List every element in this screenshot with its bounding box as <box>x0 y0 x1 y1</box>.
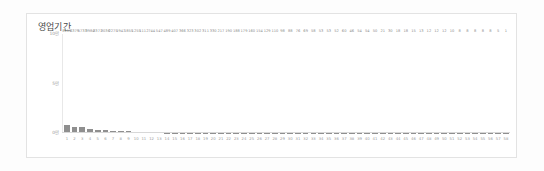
bar-item[interactable]: 302 <box>194 34 202 133</box>
bar-item[interactable]: 8 <box>479 34 487 133</box>
bar-item[interactable]: 1112 <box>140 34 148 133</box>
x-axis-tick-label: 8 <box>117 134 125 144</box>
x-axis-tick-label: 49 <box>433 134 441 144</box>
bar-item[interactable]: 98 <box>279 34 287 133</box>
x-axis-tick-label: 47 <box>417 134 425 144</box>
bar-item[interactable]: 489 <box>163 34 171 133</box>
bar-value-label: 12 <box>427 30 432 34</box>
x-axis-tick-label: 30 <box>286 134 294 144</box>
bar-value-label: 50 <box>373 30 378 34</box>
bar-item[interactable]: 744 <box>148 34 156 133</box>
x-axis-tick-label: 14 <box>163 134 171 144</box>
bar-item[interactable]: 53 <box>325 34 333 133</box>
bar-item[interactable]: 12 <box>440 34 448 133</box>
bar-item[interactable]: 6379 <box>71 34 79 133</box>
bar-item[interactable]: 190 <box>225 34 233 133</box>
bar-item[interactable]: 52 <box>333 34 341 133</box>
bar-item[interactable]: 8 <box>464 34 472 133</box>
x-axis-tick-label: 53 <box>464 134 472 144</box>
bar-value-label: 76 <box>296 30 301 34</box>
bar-item[interactable]: 2275 <box>109 34 117 133</box>
bar-item[interactable]: 76 <box>294 34 302 133</box>
bar-value-label: 53 <box>319 30 324 34</box>
bar-item[interactable]: 46 <box>348 34 356 133</box>
bar-item[interactable]: 1947 <box>117 34 125 133</box>
bar-item[interactable]: 311 <box>202 34 210 133</box>
x-axis-tick-label: 52 <box>456 134 464 144</box>
bar-item[interactable]: 30 <box>387 34 395 133</box>
bar-item[interactable]: 154 <box>256 34 264 133</box>
bar-value-label: 129 <box>264 30 271 34</box>
bar-value-label: 190 <box>225 30 232 34</box>
bar-item[interactable]: 54 <box>356 34 364 133</box>
bar-value-label: 330 <box>210 30 217 34</box>
bar-item[interactable]: 12 <box>433 34 441 133</box>
bar-item[interactable]: 8 <box>471 34 479 133</box>
bar-item[interactable]: 129 <box>263 34 271 133</box>
bar-item[interactable]: 18 <box>394 34 402 133</box>
bar-item[interactable]: 13 <box>417 34 425 133</box>
bar-item[interactable]: 8 <box>456 34 464 133</box>
bar-item[interactable]: 1 <box>502 34 510 133</box>
x-axis-tick-label: 11 <box>140 134 148 144</box>
bar-value-label: 46 <box>350 30 355 34</box>
bar-value-label: 8 <box>466 30 468 34</box>
bar-value-label: 12 <box>442 30 447 34</box>
bar-item[interactable]: 366 <box>179 34 187 133</box>
x-axis-tick-label: 23 <box>232 134 240 144</box>
bar-item[interactable]: 5733 <box>78 34 86 133</box>
bar-item[interactable]: 10 <box>448 34 456 133</box>
x-axis-tick-label: 7 <box>109 134 117 144</box>
bar-item[interactable]: 12 <box>425 34 433 133</box>
x-axis-tick-label: 32 <box>302 134 310 144</box>
bar-item[interactable]: 58 <box>310 34 318 133</box>
x-axis-tick-label: 10 <box>132 134 140 144</box>
bar-item[interactable]: 8 <box>487 34 495 133</box>
x-axis-tick-label: 51 <box>448 134 456 144</box>
x-axis-tick-label: 3 <box>78 134 86 144</box>
bar-item[interactable]: 5 <box>494 34 502 133</box>
bar-item[interactable]: 54 <box>363 34 371 133</box>
bar-item[interactable]: 69 <box>302 34 310 133</box>
bar-item[interactable]: 21 <box>379 34 387 133</box>
bar-value-label: 18 <box>396 30 401 34</box>
bar-value-label: 5 <box>497 30 499 34</box>
bar-item[interactable]: 3984 <box>86 34 94 133</box>
x-axis-tick-label: 39 <box>356 134 364 144</box>
x-axis-tick-label: 6 <box>102 134 110 144</box>
bar-value-label: 13 <box>419 30 424 34</box>
bar-value-label: 407 <box>171 30 178 34</box>
bar-item[interactable]: 188 <box>232 34 240 133</box>
screenshot-root: 영업기간 10만5만0만 811563795733398433713036227… <box>0 0 544 171</box>
bar-item[interactable]: 407 <box>171 34 179 133</box>
bar-item[interactable]: 8115 <box>63 34 71 133</box>
bar-item[interactable]: 179 <box>240 34 248 133</box>
bar-item[interactable]: 1855 <box>125 34 133 133</box>
bar-item[interactable]: 88 <box>286 34 294 133</box>
bar-item[interactable]: 330 <box>209 34 217 133</box>
bar-item[interactable]: 3036 <box>102 34 110 133</box>
bar-item[interactable]: 18 <box>402 34 410 133</box>
bar-item[interactable]: 547 <box>155 34 163 133</box>
chart-card: 영업기간 10만5만0만 811563795733398433713036227… <box>26 13 517 158</box>
x-axis-line <box>62 132 510 133</box>
bar-item[interactable]: 160 <box>248 34 256 133</box>
bar-item[interactable]: 3371 <box>94 34 102 133</box>
bar-item[interactable]: 15 <box>410 34 418 133</box>
x-axis-tick-label: 54 <box>471 134 479 144</box>
bar-value-label: 8 <box>459 30 461 34</box>
bar-value-label: 489 <box>164 30 171 34</box>
x-axis-tick-label: 37 <box>340 134 348 144</box>
bar-item[interactable]: 60 <box>340 34 348 133</box>
bar-item[interactable]: 323 <box>186 34 194 133</box>
x-axis-tick-label: 28 <box>271 134 279 144</box>
bar-item[interactable]: 110 <box>271 34 279 133</box>
bar-item[interactable]: 53 <box>317 34 325 133</box>
bar-item[interactable]: 50 <box>371 34 379 133</box>
bar-value-label: 323 <box>187 30 194 34</box>
bar-item[interactable]: 1255 <box>132 34 140 133</box>
bar-value-label: 54 <box>365 30 370 34</box>
x-axis-tick-label: 19 <box>202 134 210 144</box>
bar-item[interactable]: 217 <box>217 34 225 133</box>
bar-value-label: 52 <box>334 30 339 34</box>
